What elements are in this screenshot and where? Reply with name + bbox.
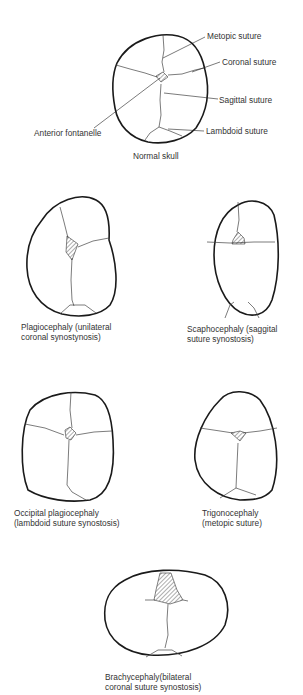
plagiocephaly-drawing [27,197,116,316]
label-anterior-fontanelle: Anterior fontanelle [34,128,101,138]
trigonocephaly-drawing [195,392,277,500]
caption-scaphocephaly: Scaphocephaly (saggital suture synostosi… [187,324,277,344]
occipital-plagiocephaly-drawing [22,392,113,501]
caption-brachycephaly: Brachycephaly(bilateral coronal suture s… [105,672,201,692]
caption-normal-skull: Normal skull [133,151,179,161]
label-metopic-suture: Metopic suture [207,31,261,41]
scaphocephaly-drawing [207,201,278,318]
brachycephaly-drawing [105,570,228,657]
caption-plagiocephaly: Plagiocephaly (unilateral coronal synost… [21,322,111,342]
caption-trigonocephaly: Trigonocephaly (metopic suture) [202,508,262,528]
label-lambdoid-suture: Lambdoid suture [206,126,268,136]
caption-occipital-plagiocephaly: Occipital plagiocephaly (lambdoid suture… [14,508,120,528]
normal-skull-drawing [94,35,220,143]
label-sagittal-suture: Sagittal suture [219,95,272,105]
label-coronal-suture: Coronal suture [222,57,276,67]
